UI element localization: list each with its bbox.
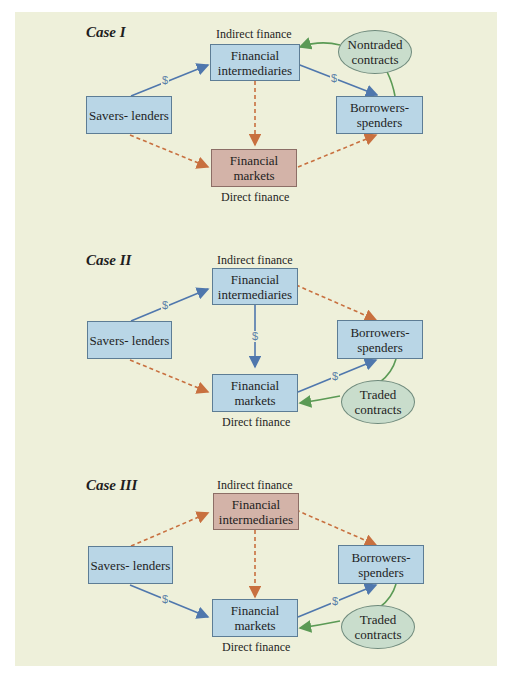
- node-savers-lenders: Savers- lenders: [88, 546, 173, 584]
- dollar-label: $: [331, 596, 339, 607]
- node-nontraded-contracts: Nontraded contracts: [338, 30, 412, 74]
- node-borrowers-spenders: Borrowers- spenders: [338, 545, 424, 584]
- node-financial-markets: Financial markets: [211, 149, 297, 187]
- dollar-label: $: [331, 371, 339, 382]
- dollar-label: $: [161, 300, 169, 311]
- dollar-label: $: [161, 75, 169, 86]
- node-financial-intermediaries: Financial intermediaries: [212, 268, 298, 305]
- direct-finance-label: Direct finance: [221, 190, 289, 205]
- direct-finance-label: Direct finance: [222, 415, 290, 430]
- case-title: Case I: [86, 24, 126, 41]
- indirect-finance-label: Indirect finance: [216, 27, 292, 42]
- node-financial-intermediaries: Financial intermediaries: [213, 493, 299, 530]
- dollar-label: $: [161, 594, 169, 605]
- node-traded-contracts: Traded contracts: [341, 605, 415, 649]
- indirect-finance-label: Indirect finance: [217, 478, 293, 493]
- node-borrowers-spenders: Borrowers- spenders: [337, 320, 423, 359]
- direct-finance-label: Direct finance: [222, 640, 290, 655]
- node-traded-contracts: Traded contracts: [341, 380, 415, 424]
- node-financial-markets: Financial markets: [212, 599, 298, 637]
- node-savers-lenders: Savers- lenders: [86, 96, 172, 134]
- node-financial-markets: Financial markets: [212, 374, 298, 412]
- dollar-label: $: [330, 73, 338, 84]
- node-financial-intermediaries: Financial intermediaries: [210, 44, 300, 81]
- case-title: Case III: [86, 477, 137, 494]
- node-savers-lenders: Savers- lenders: [87, 321, 172, 359]
- dollar-label: $: [251, 331, 259, 342]
- node-borrowers-spenders: Borrowers- spenders: [336, 96, 423, 134]
- indirect-finance-label: Indirect finance: [217, 253, 293, 268]
- case-title: Case II: [86, 252, 131, 269]
